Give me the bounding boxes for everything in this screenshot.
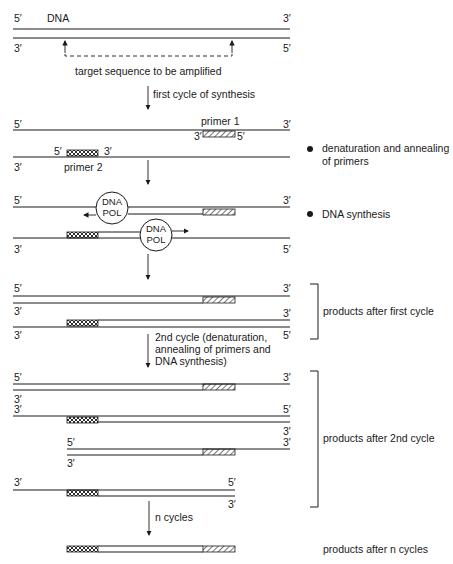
primer1-block: [203, 297, 235, 303]
end-3-label: 3′: [283, 436, 291, 448]
end-3-label: 3′: [14, 161, 22, 173]
bullet-icon: [307, 211, 313, 217]
products-bracket: [310, 371, 318, 507]
primer1-block: [203, 209, 235, 215]
synthesis-label: DNA synthesis: [322, 208, 390, 220]
pcr-diagram: 5′ DNA 3′ 3′ 5′ target sequence to be am…: [0, 0, 453, 564]
end-5-label: 5′: [67, 436, 75, 448]
end-3-label: 3′: [283, 194, 291, 206]
target-label: target sequence to be amplified: [75, 65, 222, 77]
second-cycle-label-2: annealing of primers and: [155, 343, 271, 355]
end-3-label: 3′: [283, 371, 291, 383]
end-5-label: 5′: [283, 329, 291, 341]
first-cycle-label: first cycle of synthesis: [153, 88, 255, 100]
end-3-label: 3′: [194, 130, 202, 142]
end-5-label: 5′: [237, 130, 245, 142]
pol-label: POL: [146, 234, 165, 245]
end-3-label: 3′: [14, 403, 22, 415]
initial-dna: 5′ DNA 3′ 3′ 5′ target sequence to be am…: [13, 12, 291, 77]
end-3-label: 3′: [67, 457, 75, 469]
primer2-block: [67, 546, 98, 552]
pol-label: POL: [102, 207, 121, 218]
end-3-label: 3′: [14, 243, 22, 255]
pol-label: DNA: [146, 223, 167, 234]
products-bracket: [310, 284, 318, 339]
end-3-label: 3′: [14, 476, 22, 488]
n-cycles-label: n cycles: [155, 511, 193, 523]
end-3-label: 3′: [104, 145, 112, 157]
primer1-label: primer 1: [201, 115, 240, 127]
end-3-label: 3′: [283, 307, 291, 319]
end-5-label: 5′: [14, 12, 22, 24]
end-5-label: 5′: [14, 282, 22, 294]
end-5-label: 5′: [283, 403, 291, 415]
primer2-block: [67, 417, 98, 423]
end-3-label: 3′: [14, 305, 22, 317]
target-bracket: [65, 54, 232, 56]
synthesis-stage: 5′ 3′ DNA POL DNA POL 3′ 5′ DNA synthesi…: [13, 192, 390, 255]
end-3-label: 3′: [14, 42, 22, 54]
end-5-label: 5′: [14, 371, 22, 383]
end-5-label: 5′: [283, 42, 291, 54]
products-second-label: products after 2nd cycle: [323, 432, 435, 444]
products-n-label: products after n cycles: [323, 543, 428, 555]
end-5-label: 5′: [14, 118, 22, 130]
bullet-icon: [307, 146, 313, 152]
end-3-label: 3′: [283, 12, 291, 24]
end-5-label: 5′: [228, 476, 236, 488]
dna-label: DNA: [47, 12, 69, 24]
second-cycle-products: 5′ 3′ 3′ 3′ 5′ 3′ 5′ 3′ 3′ 3′ 5′ 3′ prod…: [13, 371, 435, 510]
annealing-stage: 5′ primer 1 3′ 3′ 5′ 5′ 3′ 3′ primer 2 d…: [13, 115, 449, 173]
primer1-block: [203, 384, 235, 390]
denaturation-label-2: of primers: [322, 155, 369, 167]
primer2-block: [67, 320, 98, 326]
end-5-label: 5′: [54, 145, 62, 157]
primer1-block: [203, 131, 235, 137]
primer1-block: [203, 449, 235, 455]
second-cycle-label-3: DNA synthesis): [155, 355, 227, 367]
end-3-label: 3′: [283, 282, 291, 294]
primer2-label: primer 2: [64, 161, 103, 173]
end-5-label: 5′: [14, 194, 22, 206]
primer2-block: [67, 490, 98, 496]
pol-label: DNA: [102, 196, 123, 207]
primer2-block: [67, 150, 98, 156]
primer2-block: [67, 232, 98, 238]
second-cycle-label: 2nd cycle (denaturation,: [155, 331, 267, 343]
end-5-label: 5′: [283, 243, 291, 255]
primer1-block: [203, 546, 235, 552]
end-3-label: 3′: [283, 118, 291, 130]
end-3-label: 3′: [14, 329, 22, 341]
denaturation-label: denaturation and annealing: [322, 142, 449, 154]
products-first-label: products after first cycle: [323, 305, 434, 317]
end-3-label: 3′: [228, 498, 236, 510]
n-cycle-products: products after n cycles: [67, 543, 428, 555]
